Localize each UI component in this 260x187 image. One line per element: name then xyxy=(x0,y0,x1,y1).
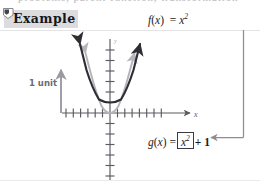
x-axis-label: x xyxy=(193,110,198,119)
x-axis: x xyxy=(62,109,198,119)
clipped-text-above: problems, parent function, transformatio… xyxy=(0,0,260,7)
parent-function-exponent: 2 xyxy=(184,12,188,21)
added-constant: + 1 xyxy=(195,136,210,148)
boxed-exponent: 2 xyxy=(186,134,190,143)
figure-page: problems, parent function, transformatio… xyxy=(0,0,260,187)
equals-sign: = xyxy=(167,14,179,26)
parent-function-label: f(x) = x2 xyxy=(148,12,188,26)
transformed-function-label: g(x) =x2+ 1 xyxy=(148,132,210,149)
paren-close: ) xyxy=(160,14,164,26)
one-unit-label: 1 unit xyxy=(29,78,57,88)
y-axis-label: y xyxy=(113,37,117,44)
clipped-text-above-label: problems, parent function, transformatio… xyxy=(18,0,239,3)
example-banner-label: Example xyxy=(13,11,76,27)
equals-sign-g: = xyxy=(167,136,176,148)
callout-connector xyxy=(208,30,244,138)
coordinate-plane-graph: y x xyxy=(0,30,260,180)
highlighted-expression-box: x2 xyxy=(177,132,194,149)
horizontal-rule-bottom xyxy=(0,180,260,181)
y-axis: y xyxy=(106,37,118,180)
